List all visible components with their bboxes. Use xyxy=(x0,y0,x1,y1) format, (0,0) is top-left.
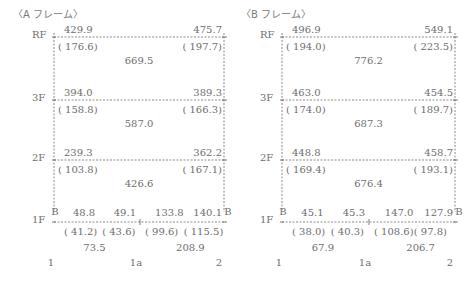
floor-label: 1F xyxy=(260,214,273,225)
moment-value: 549.1 xyxy=(424,24,453,35)
base-moment-value: 45.1 xyxy=(301,207,323,218)
span-value: 208.9 xyxy=(176,242,205,253)
moment-value: 389.3 xyxy=(193,87,222,98)
frame-title: 〈B フレーム〉 xyxy=(241,9,311,20)
base-moment-value: 49.1 xyxy=(114,207,136,218)
support-label: B xyxy=(279,206,286,217)
floor-label: RF xyxy=(32,29,47,40)
moment-value: 448.8 xyxy=(292,147,321,158)
base-moment-value: 147.0 xyxy=(385,207,414,218)
frame-title: 〈A フレーム〉 xyxy=(13,9,83,20)
floor-label: 2F xyxy=(260,152,273,163)
base-shear-value: ( 38.0) xyxy=(292,226,325,237)
shear-value: ( 166.3) xyxy=(182,104,222,115)
base-moment-value: 133.8 xyxy=(155,207,184,218)
support-label: B xyxy=(224,206,231,217)
axis-label: 2 xyxy=(216,257,222,268)
shear-value: ( 223.5) xyxy=(413,41,453,52)
base-shear-value: ( 41.2) xyxy=(64,226,97,237)
support-label: B xyxy=(455,206,462,217)
axis-label: 1a xyxy=(130,257,142,268)
axial-value: 669.5 xyxy=(125,55,154,66)
base-moment-value: 127.9 xyxy=(424,207,453,218)
support-label: B xyxy=(51,206,58,217)
floor-label: 3F xyxy=(260,92,273,103)
moment-value: 454.5 xyxy=(424,87,453,98)
base-shear-value: ( 115.5) xyxy=(184,226,224,237)
moment-value: 475.7 xyxy=(193,24,222,35)
base-shear-value: ( 99.6) xyxy=(145,226,178,237)
shear-value: ( 189.7) xyxy=(413,104,453,115)
moment-value: 458.7 xyxy=(424,147,453,158)
axis-label: 2 xyxy=(447,257,453,268)
shear-value: ( 194.0) xyxy=(286,41,326,52)
shear-value: ( 176.6) xyxy=(58,41,98,52)
frame-a: 〈A フレーム〉RF3F2F1F429.9475.7( 176.6)( 197.… xyxy=(13,9,232,268)
base-shear-value: ( 40.3) xyxy=(331,226,364,237)
base-shear-value: ( 108.6) xyxy=(374,226,414,237)
shear-value: ( 167.1) xyxy=(182,164,222,175)
axial-value: 687.3 xyxy=(354,118,383,129)
shear-value: ( 158.8) xyxy=(58,104,98,115)
base-moment-value: 140.1 xyxy=(193,207,222,218)
span-value: 73.5 xyxy=(83,242,105,253)
base-moment-value: 45.3 xyxy=(343,207,365,218)
axial-value: 776.2 xyxy=(354,55,383,66)
moment-value: 394.0 xyxy=(64,87,93,98)
moment-value: 362.2 xyxy=(193,147,222,158)
frame-diagram: 〈A フレーム〉RF3F2F1F429.9475.7( 176.6)( 197.… xyxy=(0,0,476,283)
moment-value: 239.3 xyxy=(64,147,93,158)
floor-label: 3F xyxy=(32,92,45,103)
shear-value: ( 193.1) xyxy=(413,164,453,175)
shear-value: ( 169.4) xyxy=(286,164,326,175)
shear-value: ( 103.8) xyxy=(58,164,98,175)
floor-label: 1F xyxy=(32,214,45,225)
axis-label: 1a xyxy=(359,257,371,268)
axial-value: 676.4 xyxy=(354,178,383,189)
axis-label: 1 xyxy=(276,257,282,268)
axial-value: 587.0 xyxy=(125,118,154,129)
axis-label: 1 xyxy=(48,257,54,268)
shear-value: ( 197.7) xyxy=(182,41,222,52)
floor-label: 2F xyxy=(32,152,45,163)
moment-value: 463.0 xyxy=(292,87,321,98)
base-shear-value: ( 43.6) xyxy=(102,226,135,237)
shear-value: ( 174.0) xyxy=(286,104,326,115)
floor-label: RF xyxy=(260,29,275,40)
moment-value: 429.9 xyxy=(64,24,93,35)
base-moment-value: 48.8 xyxy=(73,207,95,218)
axial-value: 426.6 xyxy=(125,178,154,189)
span-value: 67.9 xyxy=(312,242,334,253)
span-value: 206.7 xyxy=(406,242,435,253)
base-shear-value: ( 97.8) xyxy=(414,226,447,237)
moment-value: 496.9 xyxy=(292,24,321,35)
frame-b: 〈B フレーム〉RF3F2F1F496.9549.1( 194.0)( 223.… xyxy=(241,9,463,268)
